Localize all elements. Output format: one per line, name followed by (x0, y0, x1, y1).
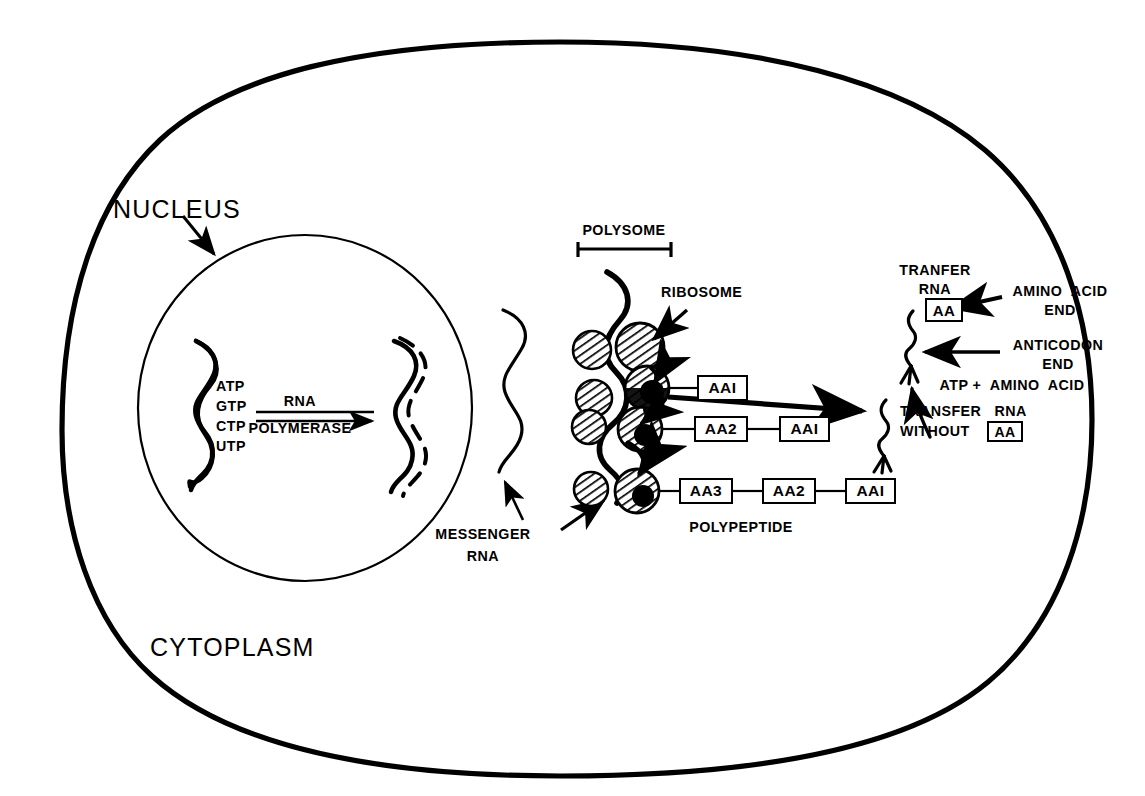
substrate-ctp: CTP (216, 418, 246, 435)
figure-canvas: NUCLEUS CYTOPLASM ATP GTP CTP UTP RNA PO… (0, 0, 1145, 796)
free-ribosome-4 (574, 472, 608, 506)
nucleus-label: NUCLEUS (113, 196, 241, 223)
messenger-rna-label-arrow-left (505, 482, 523, 520)
uncharged-trna-shape (874, 400, 891, 473)
amino-acid-end-label-line1: AMINO ACID (1013, 283, 1108, 300)
bound-ribosome-aa2 (618, 407, 662, 451)
bound-ribosome-top (616, 323, 664, 371)
polypeptide-label: POLYPEPTIDE (689, 519, 793, 536)
substrate-atp: ATP (216, 378, 245, 395)
ribosome-label: RIBOSOME (661, 284, 742, 301)
transfer-rna-title-line1: TRANFER (899, 262, 970, 279)
anticodon-end-label-line2: END (1042, 356, 1073, 373)
transfer-rna-without-line2: WITHOUT (900, 423, 970, 440)
substrate-gtp: GTP (216, 398, 247, 415)
ribosome-callout-arrow (654, 310, 687, 339)
aa-box-row3-2: AA2 (762, 478, 816, 504)
atp-amino-acid-label: ATP + AMINO ACID (940, 377, 1085, 394)
diagram-linework (0, 0, 1145, 796)
amino-acid-end-label-line2: END (1044, 302, 1075, 319)
aa-box-row3-1: AA3 (679, 478, 733, 504)
cytoplasm-label: CYTOPLASM (150, 634, 315, 661)
trna-aa-box: AA (925, 298, 963, 322)
anticodon-end-label-line1: ANTICODON (1013, 337, 1103, 354)
bound-ribosome-aa1 (625, 366, 669, 410)
transfer-rna-title-line2: RNA (919, 281, 951, 298)
transfer-rna-without-aa-box: AA (987, 421, 1023, 442)
transfer-rna-without-line1: TRANSFER RNA (900, 403, 1027, 420)
aa-box-row1-1: AAI (697, 375, 748, 401)
rna-polymerase-label-line2: POLYMERASE (248, 420, 351, 437)
dna-template-strand (189, 341, 216, 490)
free-ribosome-1 (573, 331, 611, 369)
messenger-rna-label-line1: MESSENGER (435, 526, 530, 543)
charged-trna-shape (901, 311, 918, 384)
aa-box-row2-1: AA2 (694, 416, 748, 442)
polysome-label: POLYSOME (582, 222, 665, 239)
messenger-rna-strand (499, 310, 525, 472)
aa-box-row3-3: AAI (845, 478, 896, 504)
substrate-utp: UTP (216, 438, 246, 455)
bound-ribosome-aa3 (615, 469, 659, 513)
aa-box-row2-2: AAI (779, 416, 830, 442)
rna-polymerase-label-line1: RNA (284, 393, 316, 410)
messenger-rna-label-line2: RNA (467, 548, 499, 565)
polysome-bracket (578, 242, 671, 257)
free-ribosome-3 (572, 410, 606, 444)
dna-with-nascent-rna (391, 338, 426, 496)
